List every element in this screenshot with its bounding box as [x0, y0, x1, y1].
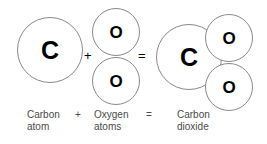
oxygen-atom-symbol-top-reactant: O	[109, 24, 122, 41]
caption-carbon-atom: Carbon atom	[27, 109, 60, 132]
oxygen-atom-circle-top-product: O	[205, 14, 253, 62]
carbon-atom-symbol-product: C	[180, 45, 198, 70]
caption-plus-operator: +	[75, 109, 81, 121]
caption-oxygen-atoms-line2: atoms	[94, 121, 128, 133]
caption-oxygen-atoms: Oxygen atoms	[94, 109, 128, 132]
oxygen-atom-symbol-bottom-product: O	[222, 79, 235, 96]
oxygen-atom-symbol-bottom-reactant: O	[109, 73, 122, 90]
caption-carbon-atom-line1: Carbon	[27, 109, 60, 121]
equals-operator-symbol: =	[138, 49, 146, 62]
carbon-atom-symbol-reactant: C	[41, 38, 59, 63]
carbon-atom-circle-reactant: C	[17, 17, 83, 83]
equation-caption-row: Carbon atom + Oxygen atoms = Carbon diox…	[0, 107, 267, 144]
chemical-equation-diagram: C + O O = C O O Carbon atom + Oxygen ato…	[0, 0, 267, 144]
caption-oxygen-atoms-line1: Oxygen	[94, 109, 128, 121]
oxygen-atom-symbol-top-product: O	[222, 30, 235, 47]
caption-equals-operator: =	[146, 109, 152, 121]
caption-carbon-dioxide-line1: Carbon	[177, 109, 210, 121]
caption-carbon-dioxide: Carbon dioxide	[177, 109, 210, 132]
caption-carbon-dioxide-line2: dioxide	[177, 121, 210, 133]
oxygen-atom-circle-bottom-product: O	[205, 63, 253, 111]
oxygen-atom-circle-bottom-reactant: O	[92, 57, 140, 105]
oxygen-atom-circle-top-reactant: O	[92, 8, 140, 56]
plus-operator-symbol: +	[84, 49, 92, 62]
caption-carbon-atom-line2: atom	[27, 121, 60, 133]
